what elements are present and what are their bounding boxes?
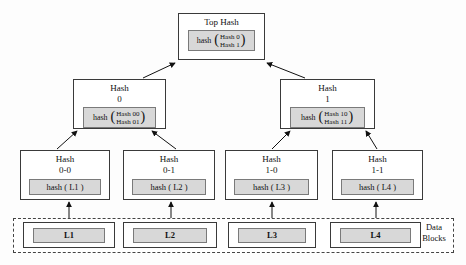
node-hash-1-0: Hash 1-0 hash ( L3 ) <box>225 150 318 200</box>
node-subtitle: 1-0 <box>266 165 278 176</box>
hash-value-box: hash ( Hash 10 Hash 11 ) <box>290 107 365 128</box>
edge-hash00-to-hash0 <box>57 131 77 149</box>
hash-label: hash ( L2 ) <box>150 182 187 192</box>
paren-open: ( <box>214 33 219 47</box>
paren-close: ) <box>241 33 246 47</box>
node-hash-1-1: Hash 1-1 hash ( L4 ) <box>332 150 423 200</box>
hash-args: Hash 0 Hash 1 <box>220 33 240 49</box>
data-block-l4: L4 <box>330 222 421 248</box>
merkle-tree-diagram: Top Hash hash ( Hash 0 Hash 1 ) Hash 0 h… <box>0 0 466 265</box>
node-subtitle: 0-0 <box>59 165 71 176</box>
hash-args: Hash 00 Hash 01 <box>116 110 139 126</box>
hash-fn: hash <box>93 113 108 122</box>
hash-value-box: hash ( Hash 0 Hash 1 ) <box>188 30 255 51</box>
node-subtitle: 0 <box>117 94 122 105</box>
hash-label: hash ( L4 ) <box>359 182 396 192</box>
paren-open: ( <box>111 110 116 124</box>
hash-value-box: hash ( L4 ) <box>341 179 414 195</box>
hash-label: hash ( L1 ) <box>46 182 83 192</box>
edge-hash0-to-top <box>143 63 175 78</box>
data-blocks-caption: Data Blocks <box>416 222 452 244</box>
node-title: Top Hash <box>204 17 239 28</box>
hash-arg: Hash 11 <box>324 118 347 126</box>
data-block-l3: L3 <box>228 222 316 248</box>
node-title: Hash <box>318 83 337 94</box>
data-block-label: L3 <box>238 228 306 243</box>
node-hash-0-0: Hash 0-0 hash ( L1 ) <box>20 150 110 200</box>
data-blocks-caption-line2: Blocks <box>416 233 452 244</box>
hash-arg: Hash 0 <box>220 33 240 41</box>
data-block-l2: L2 <box>123 222 217 248</box>
paren-close: ) <box>140 110 145 124</box>
node-hash-1: Hash 1 hash ( Hash 10 Hash 11 ) <box>280 79 375 129</box>
hash-value-box: hash ( L3 ) <box>234 179 309 195</box>
edge-hash11-to-hash1 <box>366 131 377 149</box>
hash-arg: Hash 00 <box>116 110 139 118</box>
edge-hash10-to-hash1 <box>272 131 290 149</box>
edge-hash01-to-hash0 <box>152 131 176 149</box>
hash-args: Hash 10 Hash 11 <box>324 110 347 126</box>
node-subtitle: 0-1 <box>163 165 175 176</box>
node-subtitle: 1 <box>325 94 330 105</box>
hash-value-box: hash ( L2 ) <box>132 179 206 195</box>
hash-value-box: hash ( Hash 00 Hash 01 ) <box>83 107 156 128</box>
hash-fn: hash <box>301 113 316 122</box>
node-title: Hash <box>368 154 387 165</box>
data-blocks-container: L1 L2 L3 L4 Data Blocks <box>13 218 454 253</box>
node-title: Hash <box>262 154 281 165</box>
hash-fn: hash <box>197 36 212 45</box>
hash-arg: Hash 1 <box>220 41 240 49</box>
data-block-label: L4 <box>340 228 411 243</box>
hash-label: hash ( L3 ) <box>253 182 290 192</box>
node-title: Hash <box>160 154 179 165</box>
data-blocks-caption-line1: Data <box>416 222 452 233</box>
node-hash-0-1: Hash 0-1 hash ( L2 ) <box>123 150 215 200</box>
data-block-label: L1 <box>33 228 105 243</box>
data-block-label: L2 <box>133 228 207 243</box>
node-title: Hash <box>110 83 129 94</box>
hash-value-box: hash ( L1 ) <box>29 179 101 195</box>
hash-arg: Hash 10 <box>324 110 347 118</box>
paren-close: ) <box>348 110 353 124</box>
node-top-hash: Top Hash hash ( Hash 0 Hash 1 ) <box>178 13 265 60</box>
data-block-l1: L1 <box>23 222 115 248</box>
hash-arg: Hash 01 <box>116 118 139 126</box>
node-hash-0: Hash 0 hash ( Hash 00 Hash 01 ) <box>73 79 166 129</box>
edge-hash1-to-top <box>267 63 305 78</box>
paren-open: ( <box>319 110 324 124</box>
node-subtitle: 1-1 <box>372 165 384 176</box>
node-title: Hash <box>56 154 75 165</box>
